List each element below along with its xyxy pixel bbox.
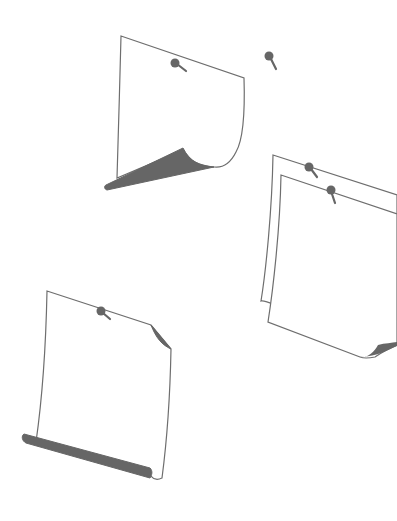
sheet-bottom (22, 291, 171, 479)
sheet-top (105, 36, 245, 190)
illustration-canvas (0, 0, 397, 521)
sheet-stack (261, 155, 397, 358)
loose-pin-icon (265, 52, 277, 70)
